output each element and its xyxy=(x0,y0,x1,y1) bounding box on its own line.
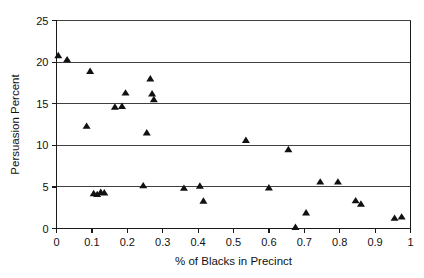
x-tick-label-8: 0.8 xyxy=(332,236,347,248)
data-point-12 xyxy=(146,75,154,81)
y-tick-label-2: 10 xyxy=(36,139,48,151)
y-tick-group: 0510152025 xyxy=(36,15,56,235)
data-point-15 xyxy=(143,129,151,135)
y-tick-label-4: 20 xyxy=(36,56,48,68)
x-tick-label-7: 0.7 xyxy=(297,236,312,248)
data-point-28 xyxy=(391,214,399,220)
scatter-plot-figure: 00.10.20.30.40.50.60.70.80.91 0510152025… xyxy=(0,0,424,278)
data-markers-group xyxy=(54,52,405,230)
data-point-22 xyxy=(291,224,299,230)
x-tick-group: 00.10.20.30.40.50.60.70.80.91 xyxy=(53,229,413,248)
x-tick-label-3: 0.3 xyxy=(155,236,170,248)
x-tick-label-10: 1 xyxy=(407,236,413,248)
data-point-18 xyxy=(199,197,207,203)
gridlines-group xyxy=(57,21,411,187)
data-point-24 xyxy=(316,178,324,184)
x-tick-label-4: 0.4 xyxy=(190,236,205,248)
data-point-14 xyxy=(150,96,158,102)
data-point-17 xyxy=(196,182,204,188)
x-tick-label-9: 0.9 xyxy=(367,236,382,248)
axes-group xyxy=(57,21,411,229)
data-point-8 xyxy=(111,103,119,109)
x-axis-title: % of Blacks in Precinct xyxy=(175,255,293,267)
data-point-16 xyxy=(180,184,188,190)
x-tick-label-2: 0.2 xyxy=(120,236,135,248)
x-tick-label-5: 0.5 xyxy=(226,236,241,248)
y-tick-label-0: 0 xyxy=(42,223,48,235)
data-point-2 xyxy=(86,68,94,74)
x-tick-label-1: 0.1 xyxy=(84,236,99,248)
y-tick-label-5: 25 xyxy=(36,15,48,27)
data-point-29 xyxy=(398,213,406,219)
y-axis-title: Persuasion Percent xyxy=(9,74,21,175)
y-tick-label-1: 5 xyxy=(42,181,48,193)
x-tick-label-6: 0.6 xyxy=(261,236,276,248)
y-tick-label-3: 15 xyxy=(36,98,48,110)
x-tick-label-0: 0 xyxy=(53,236,59,248)
data-point-10 xyxy=(122,89,130,95)
plot-svg: 00.10.20.30.40.50.60.70.80.91 0510152025… xyxy=(0,0,424,278)
data-point-0 xyxy=(54,52,62,58)
data-point-13 xyxy=(148,90,156,96)
data-point-23 xyxy=(302,209,310,215)
data-point-25 xyxy=(334,178,342,184)
data-point-21 xyxy=(284,146,292,152)
data-point-1 xyxy=(63,56,71,62)
data-point-19 xyxy=(242,137,250,143)
data-point-11 xyxy=(139,182,147,188)
data-point-3 xyxy=(83,122,91,128)
data-point-26 xyxy=(352,197,360,203)
